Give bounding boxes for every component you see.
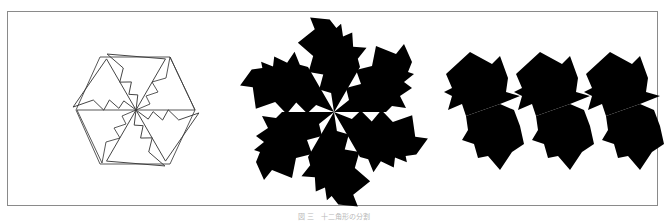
tile-unit — [584, 52, 664, 170]
pinwheel-arm — [136, 57, 195, 110]
panel-tiling-strip — [444, 52, 664, 170]
tile-unit — [514, 52, 594, 170]
figure-caption: 図 三 十二角形の分割 — [0, 212, 668, 222]
tile-upper-wedge — [584, 52, 660, 116]
tile-unit — [444, 52, 524, 170]
tile-upper-wedge — [444, 52, 520, 116]
figure-artwork — [0, 0, 668, 222]
filled-arm-group — [235, 9, 433, 216]
pinwheel-arm — [107, 110, 182, 188]
pinwheel-arm — [90, 32, 165, 110]
panel-outline-pinwheel — [61, 32, 212, 187]
tile-upper-wedge — [514, 52, 590, 116]
pinwheel-arm — [77, 110, 136, 163]
panel-filled-pinwheel — [235, 9, 433, 216]
figure-plate: 図 三 十二角形の分割 — [0, 0, 668, 222]
